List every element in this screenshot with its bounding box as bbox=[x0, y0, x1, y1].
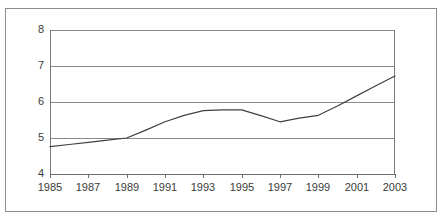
x-tick-1997 bbox=[280, 174, 281, 178]
y-axis-tick-labels: 87654 bbox=[18, 30, 44, 174]
x-tick-1999 bbox=[318, 174, 319, 178]
y-tick-label-8: 8 bbox=[20, 24, 44, 35]
x-tick-2003 bbox=[395, 174, 396, 178]
line-series-layer bbox=[50, 30, 395, 174]
x-tick-1985 bbox=[50, 174, 51, 178]
x-tick-2001 bbox=[357, 174, 358, 178]
x-tick-1987 bbox=[88, 174, 89, 178]
y-tick-label-6: 6 bbox=[20, 96, 44, 107]
chart-figure: 87654 1985198719891991199319951997199920… bbox=[0, 0, 444, 222]
y-tick-label-7: 7 bbox=[20, 60, 44, 71]
x-tick-label-2003: 2003 bbox=[373, 181, 417, 194]
x-tick-1995 bbox=[242, 174, 243, 178]
x-tick-1989 bbox=[127, 174, 128, 178]
x-tick-label-1993: 1993 bbox=[181, 181, 225, 194]
x-axis-tick-labels: 1985198719891991199319951997199920012003 bbox=[50, 181, 395, 197]
x-tick-1993 bbox=[203, 174, 204, 178]
x-tick-label-1987: 1987 bbox=[66, 181, 110, 194]
x-axis-ticks bbox=[50, 174, 395, 179]
x-tick-1991 bbox=[165, 174, 166, 178]
y-tick-label-5: 5 bbox=[20, 132, 44, 143]
plot-area bbox=[50, 30, 395, 174]
x-tick-label-1999: 1999 bbox=[296, 181, 340, 194]
line-series-1 bbox=[50, 76, 395, 147]
y-tick-label-4: 4 bbox=[20, 168, 44, 179]
